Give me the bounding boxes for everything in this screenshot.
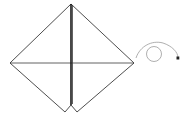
diamond-outline bbox=[10, 4, 134, 112]
folded-paper-shape bbox=[10, 4, 134, 112]
origami-diagram bbox=[0, 0, 182, 120]
arrowhead-icon bbox=[177, 57, 180, 60]
turn-over-arrow-icon bbox=[136, 42, 179, 61]
